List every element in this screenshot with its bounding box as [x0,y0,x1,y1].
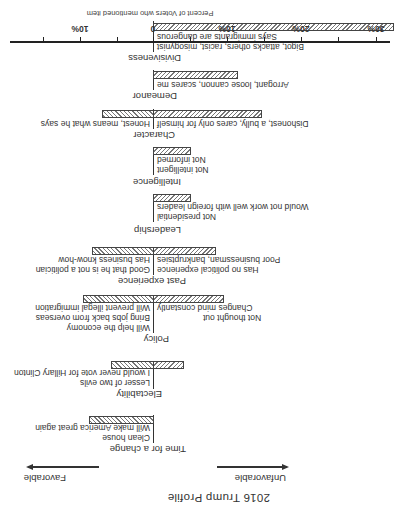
x-tick-label: 30% [367,24,384,34]
bar-unfavorable [153,295,224,303]
favorable-label: Favorable [24,473,66,484]
bar-unfavorable [153,110,262,118]
bar-favorable [111,361,154,369]
x-tick [338,37,339,42]
x-tick-label: 0 [151,24,156,34]
item-label: Bring jobs back from overseas [36,313,150,323]
item-label: Not intelligent [157,165,209,175]
item-label: Will help the economy [67,323,150,333]
unfavorable-label: Unfavorable [235,473,286,484]
category-label: Demeanor [133,91,177,102]
x-axis-label: Percent of Voters who mentioned item [87,9,214,18]
x-tick-label: 10% [71,24,88,34]
item-label: Good that he is not a politician [36,265,150,275]
bar-favorable [89,416,154,424]
x-tick [227,37,228,42]
bar-unfavorable [153,361,184,369]
item-label: Arrogant, loose cannon, scares me [157,80,289,90]
category-label: Time for a change [110,444,186,455]
bar-favorable [102,110,154,118]
x-tick [376,37,377,42]
item-label: Has no political experience [157,265,259,275]
item-label: Clean house [102,433,150,443]
unfavorable-arrowhead-icon [282,464,289,470]
x-tick [43,37,44,42]
item-label: I would never vote for Hillary Clinton [14,368,150,378]
item-label: Poor businessman, bankruptsies [157,255,280,265]
item-label: Dishonest, a bully, cares only for himse… [157,119,309,129]
bar-favorable [92,247,154,255]
item-label: Not informed [157,155,206,165]
x-tick [153,37,154,42]
unfavorable-arrow [217,467,287,469]
favorable-arrowhead-icon [26,464,33,470]
x-tick-label: 10% [218,24,235,34]
category-label: Policy [144,334,169,345]
item-label: Would not work well with foreign leaders [157,202,309,212]
bar-unfavorable [153,194,191,202]
bar-unfavorable [153,147,191,155]
x-tick-label: 20% [292,24,309,34]
x-tick [80,37,81,42]
category-label: Character [133,130,175,141]
item-label: Changes mind constantly [157,303,252,313]
x-axis-group: 10% 0 10% 20% 30% Percent of Voters who … [0,0,399,60]
chart-canvas: 2016 Trump Profile Favorable Unfavorable… [0,0,399,519]
x-tick [190,37,191,42]
item-label: Will make America great again [35,423,150,433]
item-label: Lesser of two evils [80,378,150,388]
chart-title: 2016 Trump Profile [167,492,270,504]
item-label: Will prevent illegal immigration [35,303,150,313]
bar-unfavorable [153,71,238,79]
x-tick [301,37,302,42]
bar-unfavorable [153,247,216,255]
x-tick [264,37,265,42]
item-label: Honest, means what he says [41,119,150,129]
favorable-arrow [31,467,99,469]
category-label: Leadership [134,225,181,236]
bar-favorable [83,295,154,303]
x-tick [117,37,118,42]
category-label: Past experience [118,276,186,287]
category-label: Electability [117,389,162,400]
item-label: Has business know-how [58,255,150,265]
category-label: Intelligence [133,177,181,188]
item-label: Not thought out [203,313,261,323]
x-axis-line [10,41,390,43]
item-label: Not presidential [157,212,216,222]
